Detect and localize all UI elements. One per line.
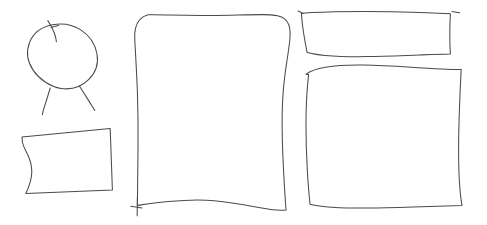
sketch-svg: [0, 0, 487, 225]
sketch-canvas: [0, 0, 487, 225]
